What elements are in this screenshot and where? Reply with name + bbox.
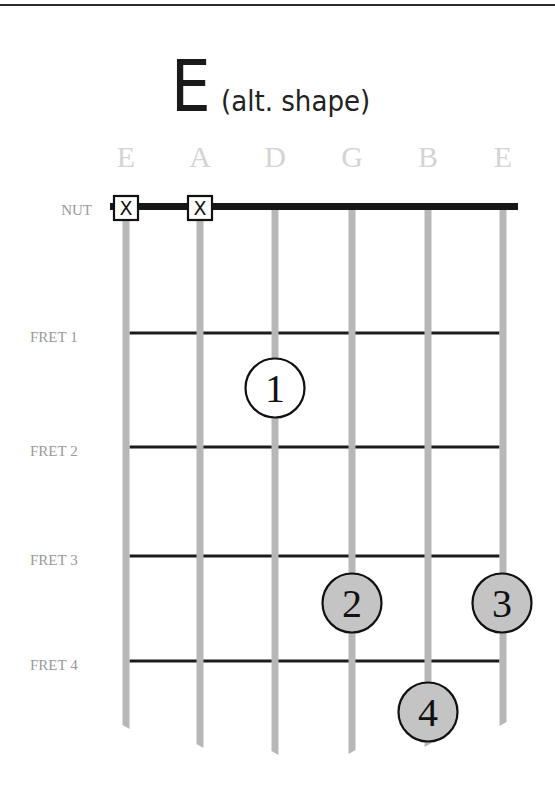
fret-line bbox=[130, 555, 500, 558]
nut-label: NUT bbox=[61, 202, 92, 218]
fret-lines bbox=[130, 332, 500, 663]
fret-line bbox=[130, 660, 500, 663]
guitar-string bbox=[197, 206, 204, 748]
guitar-string bbox=[425, 206, 432, 747]
finger-dot: 3 bbox=[473, 574, 532, 633]
finger-positions: 1234 bbox=[246, 359, 532, 742]
finger-number: 4 bbox=[418, 690, 438, 735]
fret-labels: NUTFRET 1FRET 2FRET 3FRET 4 bbox=[30, 202, 92, 673]
fret-line bbox=[130, 446, 500, 449]
finger-dot: 1 bbox=[246, 359, 305, 418]
chord-diagram: EADGBE NUTFRET 1FRET 2FRET 3FRET 4 XX 12… bbox=[0, 0, 555, 799]
string-label: A bbox=[189, 140, 211, 173]
mute-x-icon: X bbox=[193, 197, 206, 219]
finger-number: 2 bbox=[342, 581, 362, 626]
string-labels: EADGBE bbox=[117, 140, 512, 173]
finger-number: 3 bbox=[492, 581, 512, 626]
string-label: E bbox=[494, 140, 512, 173]
finger-dot: 2 bbox=[323, 574, 382, 633]
nut bbox=[110, 203, 518, 210]
string-label: D bbox=[264, 140, 286, 173]
mute-x-icon: X bbox=[119, 197, 132, 219]
fret-label: FRET 4 bbox=[30, 657, 78, 673]
fret-label: FRET 1 bbox=[30, 329, 78, 345]
fret-line bbox=[130, 332, 500, 335]
guitar-string bbox=[123, 206, 130, 729]
guitar-string bbox=[349, 206, 356, 754]
nut-bar bbox=[110, 203, 518, 210]
guitar-string bbox=[500, 206, 507, 726]
fret-label: FRET 3 bbox=[30, 552, 78, 568]
string-label: G bbox=[341, 140, 363, 173]
string-label: E bbox=[117, 140, 135, 173]
string-label: B bbox=[418, 140, 438, 173]
strings bbox=[123, 206, 507, 755]
fret-label: FRET 2 bbox=[30, 443, 78, 459]
finger-dot: 4 bbox=[399, 683, 458, 742]
guitar-string bbox=[272, 206, 279, 755]
finger-number: 1 bbox=[265, 366, 285, 411]
